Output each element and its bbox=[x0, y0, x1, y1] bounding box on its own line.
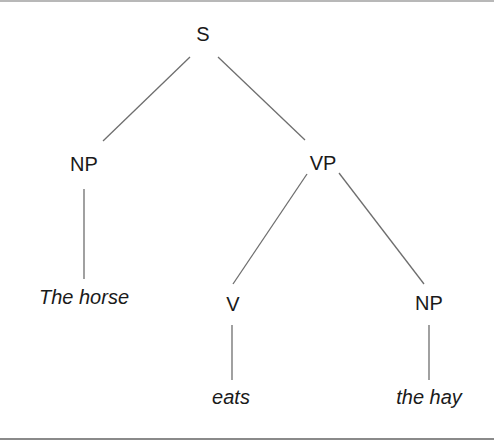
edge-vp-v bbox=[233, 174, 307, 284]
edge-s-np bbox=[103, 57, 190, 141]
edge-s-vp bbox=[218, 57, 305, 140]
tree-edges bbox=[0, 0, 494, 443]
node-s: S bbox=[196, 24, 209, 44]
leaf-the-horse: The horse bbox=[39, 287, 129, 307]
node-v: V bbox=[226, 294, 239, 314]
node-np-object: NP bbox=[415, 293, 443, 313]
node-vp: VP bbox=[310, 153, 337, 173]
leaf-the-hay: the hay bbox=[396, 387, 462, 407]
bottom-border-rule bbox=[0, 438, 494, 440]
edge-vp-np bbox=[339, 173, 424, 284]
leaf-eats: eats bbox=[212, 387, 250, 407]
node-np-subject: NP bbox=[70, 154, 98, 174]
